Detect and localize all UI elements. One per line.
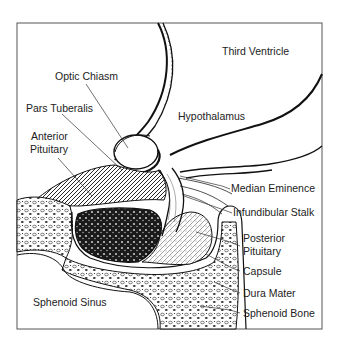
label-sphenoid-sinus: Sphenoid Sinus <box>33 296 107 308</box>
leader-pars-tuberalis <box>62 114 122 170</box>
label-dura-mater: Dura Mater <box>243 287 296 299</box>
label-hypothalamus: Hypothalamus <box>178 110 245 122</box>
label-posterior-pituitary-line1: Posterior <box>243 232 286 244</box>
sphenoid-bone-upper <box>17 197 73 258</box>
leader-infundibular-stalk <box>184 196 232 213</box>
label-capsule: Capsule <box>243 265 282 277</box>
leader-optic-chiasm <box>86 84 128 148</box>
label-anterior-pituitary-line1: Anterior <box>31 130 68 142</box>
label-posterior-pituitary-line2: Pituitary <box>243 245 282 257</box>
label-optic-chiasm: Optic Chiasm <box>55 70 118 82</box>
label-median-eminence: Median Eminence <box>231 182 315 194</box>
anterior-pituitary <box>75 208 161 262</box>
leader-median-eminence <box>180 176 230 189</box>
label-third-ventricle: Third Ventricle <box>222 45 289 57</box>
label-pars-tuberalis: Pars Tuberalis <box>26 102 93 114</box>
label-infundibular-stalk: Infundibular Stalk <box>233 206 315 218</box>
label-anterior-pituitary-line2: Pituitary <box>30 143 69 155</box>
label-sphenoid-bone: Sphenoid Bone <box>243 307 315 319</box>
pituitary-diagram: Third Ventricle Optic Chiasm Hypothalamu… <box>0 0 339 343</box>
